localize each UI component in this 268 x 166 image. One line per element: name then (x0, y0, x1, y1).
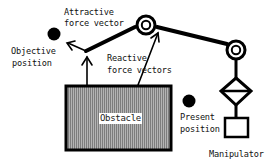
manipulator-label: Manipulator (209, 149, 264, 159)
reactive-force-label-line1: Reactive (107, 53, 147, 63)
obstacle-label: Obstacle (99, 113, 142, 124)
base-rectangle-icon (225, 118, 248, 137)
link-tip-to-joint1 (86, 27, 135, 51)
attractive-force-arrow-icon (67, 41, 86, 51)
wrist-diamond-icon (221, 78, 251, 105)
present-position-label-line1: Present (180, 112, 215, 122)
reactive-force-arrow-1-icon (82, 57, 92, 85)
present-position-dot-icon (183, 95, 196, 108)
link-joint1-to-joint2 (157, 27, 227, 44)
objective-position-dot-icon (48, 28, 61, 41)
attractive-force-label-line1: Attractive (64, 7, 114, 17)
joint-2-icon (227, 41, 245, 59)
diagram-canvas (0, 0, 268, 166)
attractive-force-label-line2: force vector (64, 18, 124, 28)
reactive-force-label-line2: force vectors (107, 65, 172, 75)
joint-1-icon (137, 16, 155, 34)
objective-position-label-line2: position (12, 58, 52, 68)
manipulator-diagram: Attractive force vector Objective positi… (0, 0, 268, 166)
objective-position-label-line1: Objective (11, 46, 56, 56)
present-position-label-line2: position (180, 124, 220, 134)
